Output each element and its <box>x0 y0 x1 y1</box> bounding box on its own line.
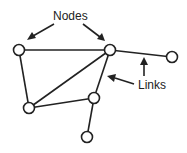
nodes-group <box>14 45 178 143</box>
link-n2-n5 <box>94 50 110 98</box>
node-n4 <box>24 103 35 114</box>
node-n6 <box>82 132 93 143</box>
nodes-label: Nodes <box>53 9 88 23</box>
links-arrow-left-shaft <box>115 78 134 84</box>
links-annotation: Links <box>107 57 166 92</box>
link-n4-n5 <box>29 98 94 108</box>
link-n1-n4 <box>19 50 29 108</box>
network-diagram: Nodes Links <box>0 0 187 153</box>
nodes-arrow-right-shaft <box>83 24 100 37</box>
nodes-arrow-left-head-icon <box>27 32 36 40</box>
node-n3 <box>167 52 178 63</box>
node-n5 <box>89 93 100 104</box>
node-n2 <box>105 45 116 56</box>
links-arrow-left-head-icon <box>107 74 116 82</box>
links-label: Links <box>138 78 166 92</box>
link-n2-n3 <box>110 50 172 57</box>
links-arrow-up-head-icon <box>140 57 148 65</box>
nodes-arrow-right-head-icon <box>97 33 105 41</box>
node-n1 <box>14 45 25 56</box>
nodes-annotation: Nodes <box>27 9 105 41</box>
nodes-arrow-left-shaft <box>33 24 54 36</box>
